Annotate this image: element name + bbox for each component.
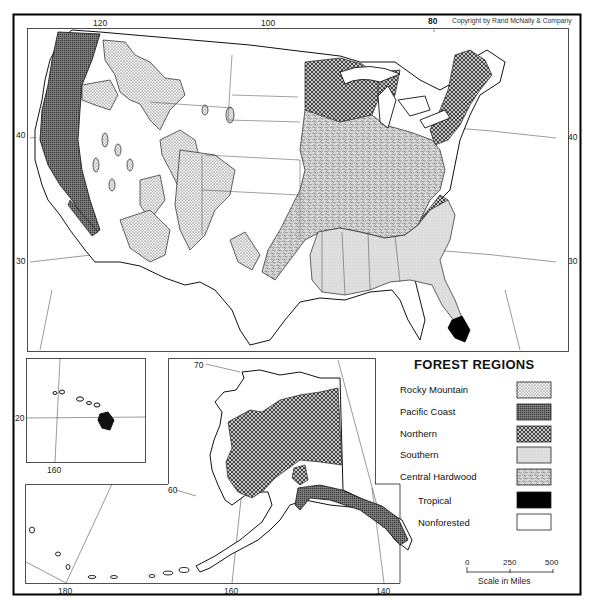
hawaii-inset — [27, 359, 146, 463]
scale-caption: Scale in Miles — [478, 576, 530, 586]
alaska-longitude-label-140: 140 — [376, 587, 390, 596]
scale-bar — [467, 567, 553, 573]
latitude-label-right-30: 30 — [568, 257, 577, 266]
alaska-pacific-coast — [295, 485, 408, 545]
scale-tick-500: 500 — [545, 558, 558, 567]
longitude-label-120: 120 — [93, 19, 107, 28]
alaska-latitude-label-70: 70 — [194, 361, 203, 370]
legend-item-nonforested: Nonforested — [400, 515, 556, 531]
legend-label: Tropical — [418, 495, 451, 506]
legend-label: Southern — [400, 449, 439, 460]
legend-label: Nonforested — [418, 517, 470, 528]
legend-item-northern: Northern — [400, 426, 556, 442]
legend-item-southern: Southern — [400, 447, 556, 463]
latitude-label-left-40: 40 — [16, 131, 25, 140]
legend-label: Pacific Coast — [400, 406, 455, 417]
alaska-longitude-label-180: 180 — [58, 587, 72, 596]
legend-label: Northern — [400, 428, 437, 439]
legend-label: Central Hardwood — [400, 471, 477, 482]
main-us-panel — [28, 28, 569, 352]
scale-tick-250: 250 — [503, 558, 516, 567]
hawaii-longitude-label: 160 — [47, 466, 61, 475]
longitude-label-100: 100 — [261, 19, 275, 28]
latitude-label-right-40: 40 — [568, 133, 577, 142]
legend-title: FOREST REGIONS — [414, 357, 535, 372]
alaska-longitude-label-160: 160 — [224, 587, 238, 596]
scale-tick-0: 0 — [465, 558, 469, 567]
latitude-label-left-30: 30 — [16, 257, 25, 266]
legend-item-tropical: Tropical — [400, 493, 556, 509]
hawaii-latitude-label: 20 — [15, 414, 24, 423]
alaska-inset — [169, 359, 413, 584]
legend-item-central-hardwood: Central Hardwood — [400, 469, 556, 485]
copyright-notice: Copyright by Rand McNally & Company — [452, 17, 572, 24]
legend-item-pacific-coast: Pacific Coast — [400, 404, 556, 420]
longitude-label-80: 80 — [428, 17, 437, 26]
legend-label: Rocky Mountain — [400, 384, 468, 395]
legend-item-rocky-mountain: Rocky Mountain — [400, 382, 556, 398]
alaska-latitude-label-60: 60 — [168, 486, 177, 495]
